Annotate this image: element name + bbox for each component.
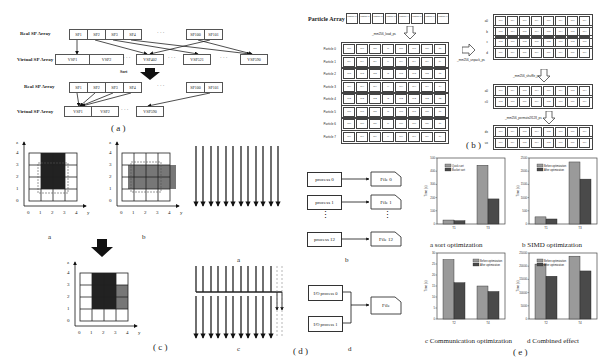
register-field-cell: ux3 bbox=[531, 138, 542, 148]
x-tick-label: T1 bbox=[452, 226, 456, 230]
caption-e: ( e ) bbox=[513, 347, 528, 357]
bar bbox=[535, 217, 546, 224]
particle-cell: Particle 7 bbox=[437, 13, 449, 24]
particle-field-cell: dy5 bbox=[356, 107, 368, 117]
caption-c: ( c ) bbox=[153, 342, 168, 352]
particle-cell: Particle 4 bbox=[398, 13, 410, 24]
particle-field-cell: i1 bbox=[382, 57, 394, 67]
y-tick-label: 15000 bbox=[519, 277, 527, 281]
chart-title-d: d Combined effect bbox=[527, 337, 579, 345]
particle-field-cell: i2 bbox=[382, 69, 394, 79]
particle-field-cell: q3 bbox=[434, 82, 446, 92]
legend-entry: After optimization bbox=[480, 263, 501, 267]
legend-entry: Before optimization bbox=[480, 259, 503, 263]
y-tick-label: 300 bbox=[430, 182, 435, 186]
bar bbox=[546, 219, 557, 224]
register-field-cell: dx4 bbox=[495, 97, 506, 107]
register-label: b bbox=[478, 30, 488, 34]
register-label: c0 bbox=[478, 100, 488, 104]
particle-field-cell: dy0 bbox=[356, 44, 368, 54]
particle-field-cell: uz5 bbox=[421, 107, 433, 117]
z-tick: 1 bbox=[109, 186, 112, 191]
bar bbox=[569, 256, 580, 319]
register-field-cell: ux5 bbox=[555, 138, 566, 148]
y-tick-label: 100 bbox=[430, 209, 435, 213]
bar bbox=[488, 292, 499, 320]
register-field-cell: ux4 bbox=[543, 138, 554, 148]
vsp-cell: VSP590 bbox=[136, 106, 164, 117]
particle-field-cell: dz6 bbox=[369, 119, 381, 129]
particle-field-cell: dx4 bbox=[343, 94, 355, 104]
particle-field-cell: uy1 bbox=[408, 57, 420, 67]
vsp-cell: VSP521 bbox=[183, 54, 211, 65]
caption-d: ( d ) bbox=[293, 346, 308, 356]
x-tick-label: T3 bbox=[486, 226, 490, 230]
particle-field-cell: uz0 bbox=[421, 44, 433, 54]
particle-array: Particle 0 Particle 1 Particle 2 Particl… bbox=[346, 13, 449, 24]
real-sp-array-label-top: Real SP Array bbox=[20, 31, 51, 36]
sub-label-a: a bbox=[48, 233, 51, 241]
bar-chart: 05001000150020002500Time (s)T1T3Before o… bbox=[515, 155, 603, 235]
particle-field-cell: i6 bbox=[382, 119, 394, 129]
simd-register-row: uxux0ux1ux2ux3ux4ux5ux6ux7 bbox=[478, 136, 593, 150]
bar bbox=[580, 179, 591, 224]
chart-title-c: c Communication optimization bbox=[425, 337, 515, 345]
x-tick-label: T4 bbox=[486, 321, 490, 325]
particle-field-cell: uz4 bbox=[421, 94, 433, 104]
z-tick: 3 bbox=[109, 162, 112, 167]
particle-field-cell: ux4 bbox=[395, 94, 407, 104]
bar bbox=[454, 283, 465, 319]
y-tick-label: 30 bbox=[432, 251, 436, 255]
particle-field-cell: uy3 bbox=[408, 82, 420, 92]
particle-field-cell: ux1 bbox=[395, 57, 407, 67]
z-tick: 3 bbox=[67, 282, 70, 287]
register-field-cell: dx7 bbox=[507, 48, 518, 58]
panel-d: process 0 process 1 ⋮ process 12 File 0 … bbox=[185, 140, 415, 361]
ellipsis: · · · bbox=[157, 30, 165, 35]
y-tick-label: 5 bbox=[433, 306, 435, 310]
particle-cell: Particle 5 bbox=[411, 13, 423, 24]
y-tick: 2 bbox=[144, 210, 147, 215]
y-tick: 2 bbox=[51, 210, 54, 215]
particle-field-cell: dz3 bbox=[369, 82, 381, 92]
chart-title-b: b SIMD optimization bbox=[522, 241, 582, 249]
particle-field-cell: dx3 bbox=[343, 82, 355, 92]
y-axis-label: Time (s) bbox=[516, 186, 520, 197]
y-tick-label: 500 bbox=[430, 156, 435, 160]
process-box: process 0 bbox=[307, 172, 342, 187]
bar-chart: 051015202530Time (s)T2T4Before optimizat… bbox=[423, 250, 511, 330]
file-box: File 12 bbox=[371, 232, 401, 246]
particle-field-cell: q6 bbox=[434, 119, 446, 129]
particle-cell: Particle 2 bbox=[372, 13, 384, 24]
particle-field-cell: dy3 bbox=[356, 82, 368, 92]
process-box: process 1 bbox=[307, 195, 342, 210]
process-box: process 12 bbox=[307, 232, 342, 247]
particle-field-cell: i5 bbox=[382, 107, 394, 117]
y-axis-label: y bbox=[138, 330, 141, 335]
bar bbox=[454, 221, 465, 224]
legend-entry: Before optimization bbox=[544, 164, 567, 168]
bar bbox=[580, 271, 591, 319]
register-label: a0 bbox=[478, 89, 488, 93]
load-label: _mm256_load_ps bbox=[372, 32, 396, 36]
vdots: ⋮ bbox=[383, 210, 392, 220]
y-tick-label: 400 bbox=[430, 169, 435, 173]
y-tick-label: 0 bbox=[433, 317, 435, 321]
register-field-cell: ux4 bbox=[543, 97, 554, 107]
sp-cell: SP101 bbox=[204, 29, 223, 40]
chart-title-a: a sort optimization bbox=[430, 241, 483, 249]
register-field-cell: dx6 bbox=[519, 97, 530, 107]
register-label: c bbox=[478, 40, 488, 44]
bar bbox=[477, 286, 488, 319]
register-field-cell: ux2 bbox=[519, 138, 530, 148]
bar bbox=[443, 220, 454, 224]
y-tick: 2 bbox=[102, 330, 105, 335]
x-tick-label: T4 bbox=[578, 321, 582, 325]
particle-cell: Particle 0 bbox=[346, 13, 358, 24]
particle-field-cell: i4 bbox=[382, 94, 394, 104]
particle-field-cell: i3 bbox=[382, 82, 394, 92]
y-tick-label: 200 bbox=[430, 196, 435, 200]
x-tick-label: T1 bbox=[544, 226, 548, 230]
y-tick: 1 bbox=[39, 210, 42, 215]
bar bbox=[488, 199, 499, 224]
